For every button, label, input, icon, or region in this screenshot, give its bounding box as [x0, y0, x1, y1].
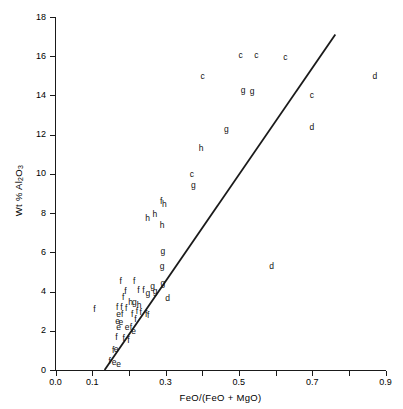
data-point-c-1: c [254, 51, 258, 60]
data-point-f-44: f [131, 310, 133, 319]
y-tick-8 [50, 213, 55, 214]
data-point-f-32: f [137, 285, 139, 294]
x-tick-0.1 [92, 371, 93, 376]
y-tick-0 [50, 370, 55, 371]
regression-line [0, 0, 403, 409]
data-point-h-25: h [160, 221, 165, 230]
plot-area: 024681012141618 0.00.10.30.50.70.9 ccccc… [0, 0, 403, 409]
y-tick-2 [50, 331, 55, 332]
data-point-g-11: g [250, 86, 255, 95]
y-axis-line [55, 17, 56, 371]
data-point-h-26: h [128, 298, 133, 307]
data-point-c-0: c [239, 51, 243, 60]
x-tick-label-0.5: 0.5 [219, 378, 259, 387]
data-point-d-7: d [309, 123, 314, 132]
data-point-g-16: g [161, 278, 166, 287]
data-point-f-49: f [127, 335, 129, 344]
y-tick-10 [50, 174, 55, 175]
data-point-d-8: d [269, 262, 274, 271]
data-point-f-33: f [142, 285, 144, 294]
data-point-f-40: f [139, 308, 141, 317]
data-point-g-19: g [146, 288, 151, 297]
x-tick-label-0.7: 0.7 [292, 378, 332, 387]
data-point-g-15: g [160, 262, 165, 271]
data-point-h-22: h [162, 200, 167, 209]
y-tick-14 [50, 95, 55, 96]
y-tick-label-2: 2 [12, 326, 46, 335]
y-tick-label-4: 4 [12, 287, 46, 296]
x-tick-0 [56, 371, 57, 376]
data-point-e-60: e [116, 360, 121, 369]
y-tick-4 [50, 292, 55, 293]
y-tick-18 [50, 17, 55, 18]
x-tick-label-0.9: 0.9 [366, 378, 403, 387]
data-point-f-35: f [93, 305, 95, 314]
data-point-f-48: f [123, 333, 125, 342]
x-tick-0.7 [312, 371, 313, 376]
y-tick-6 [50, 252, 55, 253]
data-point-c-5: c [190, 170, 194, 179]
data-point-f-38: f [125, 304, 127, 313]
x-tick-label-0.3: 0.3 [146, 378, 186, 387]
y-tick-label-16: 16 [12, 52, 46, 61]
data-point-g-13: g [191, 180, 196, 189]
data-point-e-58: e [114, 345, 119, 354]
scatter-plot-figure: 024681012141618 0.00.10.30.50.70.9 ccccc… [0, 0, 403, 409]
data-point-g-12: g [224, 125, 229, 134]
y-tick-label-0: 0 [12, 366, 46, 375]
data-point-f-31: f [124, 286, 126, 295]
data-point-f-42: f [147, 311, 149, 320]
data-point-g-14: g [161, 247, 166, 256]
data-point-f-47: f [115, 332, 117, 341]
data-point-e-57: e [131, 327, 136, 336]
data-point-f-45: f [134, 315, 136, 324]
x-tick-0.5 [239, 371, 240, 376]
data-point-c-4: c [310, 90, 314, 99]
data-point-c-2: c [283, 53, 287, 62]
data-point-d-6: d [373, 72, 378, 81]
data-point-g-10: g [241, 85, 246, 94]
x-axis-line [55, 370, 386, 371]
x-axis-title: FeO/(FeO + MgO) [55, 392, 386, 403]
data-point-f-30: f [133, 277, 135, 286]
data-point-e-55: e [116, 323, 121, 332]
data-point-e-56: e [125, 323, 130, 332]
data-point-h-23: h [153, 210, 158, 219]
data-point-f-34: f [122, 292, 124, 301]
x-tick-0.4 [202, 371, 203, 376]
data-point-f-51: f [109, 357, 111, 366]
y-tick-label-18: 18 [12, 13, 46, 22]
x-tick-0.3 [166, 371, 167, 376]
y-axis-title: Wt % Al2O3 [13, 111, 24, 271]
x-tick-0.2 [129, 371, 130, 376]
data-point-f-28: f [160, 197, 162, 206]
data-point-f-29: f [120, 277, 122, 286]
x-tick-0.6 [276, 371, 277, 376]
x-tick-label-0.1: 0.1 [72, 378, 112, 387]
y-tick-12 [50, 135, 55, 136]
data-point-c-3: c [200, 72, 204, 81]
data-point-d-9: d [165, 294, 170, 303]
data-point-h-21: h [199, 144, 204, 153]
x-tick-0.9 [386, 371, 387, 376]
y-tick-16 [50, 56, 55, 57]
y-tick-label-14: 14 [12, 91, 46, 100]
data-point-g-18: g [153, 286, 158, 295]
data-point-h-24: h [145, 214, 150, 223]
x-tick-label-0.0: 0.0 [36, 378, 76, 387]
x-tick-0.8 [349, 371, 350, 376]
